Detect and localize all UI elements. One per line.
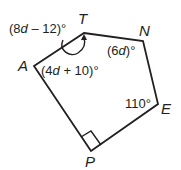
- vertex-label-t: T: [78, 10, 89, 27]
- vertex-label-e: E: [161, 100, 172, 117]
- vertex-label-p: P: [85, 153, 95, 170]
- right-angle-marker-p: [81, 131, 101, 145]
- pentagon-diagram: T N E P A (8d – 12)° (6d)° (4d + 10)° 11…: [0, 0, 181, 170]
- pentagon-tnepa: [34, 33, 158, 151]
- angle-label-t: (8d – 12)°: [9, 21, 66, 36]
- vertex-label-n: N: [139, 22, 150, 39]
- vertex-label-a: A: [17, 57, 28, 74]
- angle-label-e: 110°: [125, 96, 151, 111]
- angle-label-a: (4d + 10)°: [41, 63, 99, 78]
- angle-label-n: (6d)°: [107, 43, 135, 58]
